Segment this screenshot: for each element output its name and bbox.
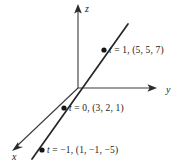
- t-rest-plus-1: = 1, (5, 5, 7): [112, 45, 164, 56]
- point-label-t-plus-1: t = 1, (5, 5, 7): [109, 45, 164, 56]
- point-dot-t-minus-1: [39, 147, 44, 152]
- x-axis-arrowhead: [12, 142, 23, 151]
- coordinate-diagram-svg: z y x t = 1, (5, 5, 7): [0, 0, 189, 165]
- x-axis-label: x: [11, 151, 17, 162]
- point-label-t-minus-1: t = −1, (1, −1, −5): [47, 145, 118, 156]
- y-axis-label: y: [165, 84, 171, 95]
- figure-canvas: z y x t = 1, (5, 5, 7): [0, 0, 189, 165]
- point-dot-t-zero: [61, 105, 66, 110]
- point-label-t-zero: t = 0, (3, 2, 1): [69, 103, 124, 114]
- point-dot-t-plus-1: [101, 47, 106, 52]
- t-rest-zero: = 0, (3, 2, 1): [72, 103, 124, 114]
- z-axis-label: z: [84, 3, 89, 14]
- t-rest-minus-1: = −1, (1, −1, −5): [50, 145, 118, 156]
- z-axis: z: [74, 3, 89, 88]
- y-axis: y: [78, 84, 171, 95]
